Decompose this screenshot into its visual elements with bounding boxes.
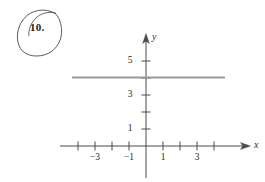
x-axis-label: x (254, 139, 258, 150)
y-axis-label: y (152, 31, 156, 42)
x-tick-label--3: −3 (83, 152, 107, 162)
problem-number-circle-annotation (17, 10, 61, 56)
x-tick-label-1: 1 (157, 152, 169, 162)
y-tick-label-1: 1 (124, 123, 136, 133)
problem-number: 10. (30, 21, 44, 33)
y-tick-label-3: 3 (124, 89, 136, 99)
x-tick-label--1: −1 (117, 152, 141, 162)
x-tick-label-3: 3 (191, 152, 203, 162)
y-tick-label-5: 5 (124, 55, 136, 65)
